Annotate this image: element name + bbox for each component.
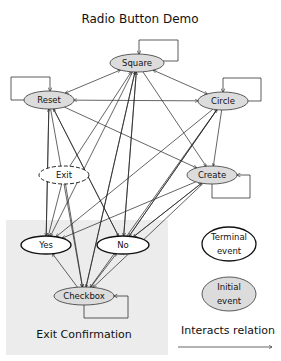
edge-square-to-circle — [153, 70, 207, 94]
reset-label: Reset — [37, 95, 61, 105]
node-square: Square — [110, 54, 164, 72]
edge-exit-to-square — [70, 72, 132, 166]
edge-no-to-square — [124, 72, 137, 236]
node-no: No — [97, 236, 149, 254]
circle-label: Circle — [211, 96, 235, 106]
legend-relation-label: Interacts relation — [181, 324, 275, 337]
no-label: No — [117, 240, 129, 250]
exit-label: Exit — [56, 170, 73, 180]
node-yes: Yes — [21, 236, 71, 254]
checkbox-label: Checkbox — [63, 291, 105, 301]
legend-terminal-line1: Terminal — [210, 232, 247, 242]
legend-initial-line2: event — [217, 296, 242, 306]
node-checkbox: Checkbox — [54, 287, 114, 305]
edge-circle-to-create — [213, 110, 221, 166]
diagram-title: Radio Button Demo — [81, 12, 198, 26]
node-circle: Circle — [198, 92, 248, 110]
square-label: Square — [122, 58, 152, 68]
yes-label: Yes — [38, 240, 53, 250]
exit-confirmation-label: Exit Confirmation — [36, 328, 132, 341]
edge-square-to-create — [143, 72, 206, 166]
create-label: Create — [198, 170, 226, 180]
legend-terminal-line2: event — [217, 246, 242, 256]
legend: Terminal event Initial event Interacts r… — [178, 227, 275, 347]
legend-initial-line1: Initial — [217, 282, 241, 292]
edge-reset-to-create — [64, 107, 196, 168]
node-reset: Reset — [24, 91, 74, 109]
node-exit: Exit — [39, 166, 89, 184]
edge-square-to-reset — [65, 70, 120, 93]
node-create: Create — [187, 166, 237, 184]
edge-reset-to-circle — [74, 100, 198, 101]
radio-button-demo-diagram: Radio Button Demo SquareResetCircleExitC… — [0, 0, 281, 361]
